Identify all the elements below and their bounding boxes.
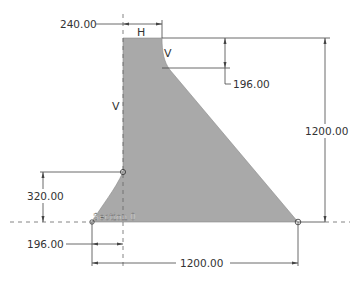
section-name-label: Section 0 [93, 212, 136, 222]
dimension-top-width-value[interactable]: 240.00 [60, 18, 97, 30]
dimension-toe-height-value[interactable]: 320.00 [27, 190, 64, 202]
dimension-toe-width[interactable] [66, 222, 123, 266]
dimension-total-height-value[interactable]: 1200.00 [305, 125, 348, 137]
dimension-top-width[interactable] [96, 20, 162, 38]
constraint-v-upstream-label: V [112, 100, 120, 113]
constraint-h-label: H [137, 26, 145, 39]
constraint-v-fillet-label: V [164, 47, 172, 60]
dimension-toe-width-value[interactable]: 196.00 [27, 238, 64, 250]
dimension-base-width-value[interactable]: 1200.00 [180, 257, 223, 269]
dimension-fillet-height-value[interactable]: 196.00 [233, 78, 270, 90]
dam-section-drawing: 240.00 H 196.00 V 1200.00 V 320.00 Secti… [0, 0, 362, 287]
